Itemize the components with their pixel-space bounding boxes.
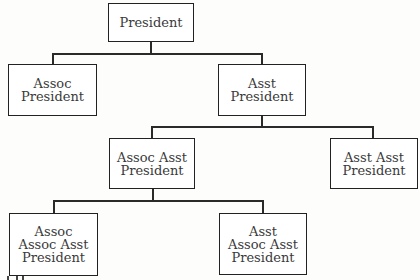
connector-level4-bar xyxy=(53,200,264,202)
node-asst-assoc-asst-president[interactable]: Asst Assoc Asst President xyxy=(219,213,307,275)
cropped-text-fragment xyxy=(4,274,28,280)
node-label-line: President xyxy=(119,16,182,29)
node-label-line: President xyxy=(231,251,294,264)
node-label-line: President xyxy=(342,164,405,177)
node-asst-asst-president[interactable]: Asst Asst President xyxy=(330,138,418,189)
org-chart-canvas: President Assoc President Asst President… xyxy=(0,0,420,280)
node-label-line: Assoc Asst xyxy=(117,151,187,164)
node-label-line: President xyxy=(230,90,293,103)
node-assoc-asst-president[interactable]: Assoc Asst President xyxy=(109,138,195,189)
connector-to-asst-assoc-asst-president xyxy=(262,200,264,214)
connector-level3-bar xyxy=(151,126,374,128)
node-label-line: President xyxy=(22,251,85,264)
node-label-line: Asst xyxy=(249,225,277,238)
node-label-line: Assoc Asst xyxy=(228,238,298,251)
node-assoc-president[interactable]: Assoc President xyxy=(8,64,97,116)
connector-level2-bar xyxy=(52,53,263,55)
node-president[interactable]: President xyxy=(108,3,194,42)
connector-to-assoc-assoc-asst-president xyxy=(53,200,55,214)
node-label-line: Asst Asst xyxy=(344,151,404,164)
node-label-line: President xyxy=(120,164,183,177)
node-assoc-assoc-asst-president[interactable]: Assoc Assoc Asst President xyxy=(9,213,98,276)
node-asst-president[interactable]: Asst President xyxy=(218,64,306,116)
node-label-line: President xyxy=(21,90,84,103)
